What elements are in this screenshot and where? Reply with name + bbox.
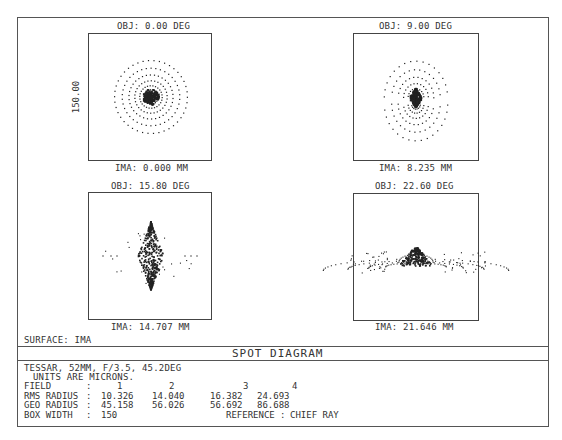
panel1-obj-label: OBJ: 0.00 DEG	[117, 21, 190, 31]
spot-box-4	[353, 193, 479, 321]
panel2-obj-label: OBJ: 9.00 DEG	[379, 21, 452, 31]
reference-value: CHIEF RAY	[290, 411, 339, 421]
spot-plot-2	[354, 34, 480, 162]
spot-plot-4	[354, 194, 480, 322]
divider-bottom	[17, 360, 549, 361]
spot-box-2	[353, 33, 479, 161]
panel4-obj-label: OBJ: 22.60 DEG	[375, 181, 454, 191]
field-3: 3	[243, 382, 248, 392]
spot-plot-1	[89, 34, 213, 162]
panel1-ima-label: IMA: 0.000 MM	[115, 163, 188, 173]
surface-label: SURFACE: IMA	[24, 335, 91, 345]
panel3-obj-label: OBJ: 15.80 DEG	[111, 181, 190, 191]
panel4-ima-label: IMA: 21.646 MM	[375, 322, 454, 332]
chart-title: SPOT DIAGRAM	[232, 347, 323, 360]
stats-table: FIELD : 1 2 3 4 RMS RADIUS : 10.326 14.0…	[24, 382, 544, 420]
field-4: 4	[292, 382, 297, 392]
spot-plot-3	[89, 193, 213, 321]
box-scale-label: 150.00	[71, 77, 81, 117]
panel3-ima-label: IMA: 14.707 MM	[111, 322, 190, 332]
row-label: BOX WIDTH	[24, 411, 73, 421]
panel2-ima-label: IMA: 8.235 MM	[379, 163, 452, 173]
spot-box-3	[88, 192, 212, 320]
spot-box-1	[88, 33, 212, 161]
row-box-width: BOX WIDTH : 150 REFERENCE : CHIEF RAY	[24, 411, 544, 421]
reference-label: REFERENCE	[226, 411, 275, 421]
